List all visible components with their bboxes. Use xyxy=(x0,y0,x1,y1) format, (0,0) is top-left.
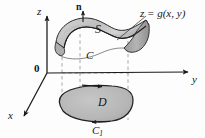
boundary-curve-label: C xyxy=(86,50,93,61)
normal-vector-label: n xyxy=(76,2,82,12)
z-axis-label: z xyxy=(37,6,41,17)
figure-canvas xyxy=(0,0,205,138)
region-d xyxy=(59,85,133,121)
region-label: D xyxy=(98,96,107,108)
stokes-theorem-figure: z y x 0 n S z = g(x, y) C D C1 xyxy=(0,0,205,138)
x-axis-label: x xyxy=(8,110,13,121)
surface-equation-label: z = g(x, y) xyxy=(140,8,185,19)
region-d-shape xyxy=(59,85,133,121)
y-axis xyxy=(47,72,188,73)
projected-curve-label: C1 xyxy=(92,125,103,137)
origin-label: 0 xyxy=(34,63,40,74)
x-axis xyxy=(24,73,47,116)
projected-curve-label-subscript: 1 xyxy=(99,129,103,138)
surface-label: S xyxy=(95,23,101,35)
y-axis-label: y xyxy=(192,74,197,85)
c1-arrow-bottom xyxy=(92,121,110,122)
surface-s xyxy=(55,18,149,56)
